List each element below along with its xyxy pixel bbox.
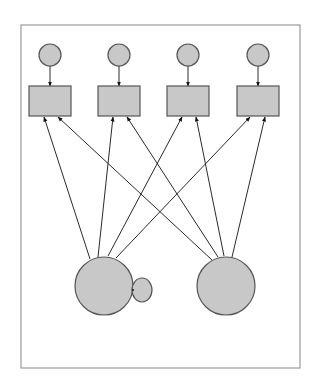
path-diagram xyxy=(0,0,317,387)
observed-w1 xyxy=(29,86,71,116)
observed-w3 xyxy=(167,86,209,116)
w4-box xyxy=(237,86,279,116)
latent-slope xyxy=(197,257,255,315)
latent-icept xyxy=(75,257,133,315)
e1-circle xyxy=(39,44,61,66)
e4-circle xyxy=(247,44,269,66)
e2-circle xyxy=(108,44,130,66)
observed-w2 xyxy=(98,86,140,116)
w2-box xyxy=(98,86,140,116)
slope-circle xyxy=(197,257,255,315)
disturbance-d1 xyxy=(132,278,152,302)
e3-circle xyxy=(177,44,199,66)
d1-ellipse xyxy=(132,278,152,302)
w1-box xyxy=(29,86,71,116)
observed-w4 xyxy=(237,86,279,116)
w3-box xyxy=(167,86,209,116)
icept-circle xyxy=(75,257,133,315)
